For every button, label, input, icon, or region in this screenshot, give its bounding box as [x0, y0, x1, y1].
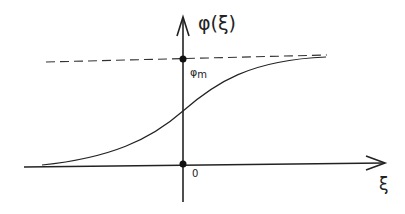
x-axis — [24, 163, 384, 167]
origin-label: 0 — [192, 168, 198, 179]
y-axis-label: φ(ξ) — [198, 12, 236, 34]
asymptote-label-sub: m — [197, 69, 207, 80]
asymptote-intercept-point — [180, 56, 187, 63]
sigmoid-curve — [42, 57, 326, 165]
origin-point — [180, 161, 187, 168]
sigmoid-diagram: φ(ξ) ξ 0 φm — [0, 0, 405, 214]
x-axis-label: ξ — [379, 174, 388, 194]
asymptote-label: φm — [190, 66, 207, 80]
asymptote-label-base: φ — [190, 66, 197, 79]
